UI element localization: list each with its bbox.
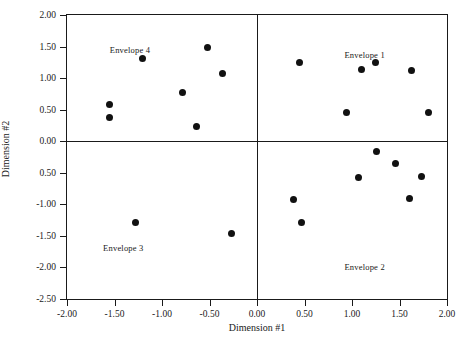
y-axis-tick bbox=[60, 141, 67, 142]
quadrant-label: Envelope 1 bbox=[344, 50, 384, 60]
x-axis-tick-label: 1.00 bbox=[344, 309, 361, 319]
data-point bbox=[406, 195, 413, 202]
data-point bbox=[373, 148, 380, 155]
x-axis-tick-label: -0.50 bbox=[200, 309, 220, 319]
y-axis-tick bbox=[60, 110, 67, 111]
y-axis-tick-label: -1.00 bbox=[36, 199, 56, 209]
x-axis-tick bbox=[162, 299, 163, 306]
y-axis-tick bbox=[60, 47, 67, 48]
x-axis-tick-label: 0.50 bbox=[296, 309, 313, 319]
y-axis-tick bbox=[60, 204, 67, 205]
scatter-plot-figure: -2.00-1.50-1.00-0.500.000.501.001.502.00… bbox=[0, 0, 464, 342]
y-axis-tick-label: -1.50 bbox=[36, 231, 56, 241]
data-point bbox=[425, 109, 432, 116]
data-point bbox=[298, 219, 305, 226]
y-axis-tick-label: 0.00 bbox=[39, 136, 56, 146]
x-axis-tick bbox=[447, 299, 448, 306]
data-point bbox=[355, 174, 362, 181]
x-axis-tick bbox=[257, 299, 258, 306]
y-axis-tick bbox=[60, 267, 67, 268]
x-axis-tick-label: 1.50 bbox=[391, 309, 408, 319]
y-axis-tick bbox=[60, 236, 67, 237]
x-axis-tick-label: 2.00 bbox=[439, 309, 456, 319]
x-axis-tick bbox=[115, 299, 116, 306]
data-point bbox=[343, 109, 350, 116]
y-axis-tick-label: 1.00 bbox=[39, 73, 56, 83]
data-point bbox=[408, 67, 415, 74]
data-point bbox=[139, 55, 146, 62]
y-axis-tick-label: 0.50 bbox=[39, 105, 56, 115]
x-axis-tick bbox=[305, 299, 306, 306]
x-axis-title: Dimension #1 bbox=[66, 322, 448, 333]
quadrant-label: Envelope 2 bbox=[344, 262, 384, 272]
y-axis-tick bbox=[60, 173, 67, 174]
x-axis-tick bbox=[67, 299, 68, 306]
y-axis-tick-label: 0.50 bbox=[39, 168, 56, 178]
data-point bbox=[392, 160, 399, 167]
data-point bbox=[106, 101, 113, 108]
y-axis-tick-label: 1.50 bbox=[39, 42, 56, 52]
data-point bbox=[372, 59, 379, 66]
x-axis-tick-label: 0.00 bbox=[249, 309, 266, 319]
y-axis-title: Dimension #2 bbox=[0, 6, 16, 292]
data-point bbox=[193, 123, 200, 130]
quadrant-label: Envelope 4 bbox=[110, 45, 150, 55]
data-point bbox=[296, 59, 303, 66]
plot-area: -2.00-1.50-1.00-0.500.000.501.001.502.00… bbox=[66, 14, 448, 300]
quadrant-label: Envelope 3 bbox=[103, 243, 143, 253]
data-point bbox=[219, 70, 226, 77]
data-point bbox=[358, 66, 365, 73]
data-point bbox=[228, 230, 235, 237]
data-point bbox=[106, 114, 113, 121]
y-axis-tick bbox=[60, 78, 67, 79]
y-axis-tick bbox=[60, 299, 67, 300]
x-axis-tick-label: -1.00 bbox=[152, 309, 172, 319]
data-point bbox=[418, 173, 425, 180]
x-axis-tick bbox=[210, 299, 211, 306]
y-axis-tick-label: -2.50 bbox=[36, 294, 56, 304]
y-axis-tick bbox=[60, 15, 67, 16]
x-axis-tick-label: -1.50 bbox=[105, 309, 125, 319]
y-axis-tick-label: -2.00 bbox=[36, 262, 56, 272]
x-axis-tick-label: -2.00 bbox=[57, 309, 77, 319]
x-axis-tick bbox=[400, 299, 401, 306]
data-point bbox=[290, 196, 297, 203]
x-axis-tick bbox=[352, 299, 353, 306]
quadrant-divider-horizontal bbox=[67, 141, 447, 142]
data-point bbox=[179, 89, 186, 96]
data-point bbox=[132, 219, 139, 226]
quadrant-divider-vertical bbox=[257, 15, 258, 299]
data-point bbox=[204, 44, 211, 51]
y-axis-tick-label: 2.00 bbox=[39, 10, 56, 20]
